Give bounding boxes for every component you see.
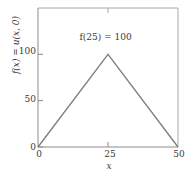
x-tick-label-50: 50 <box>166 150 190 159</box>
plot-figure: f(x) = u(x, 0) 100 50 0 0 25 50 x f(25) … <box>0 0 190 178</box>
peak-annotation: f(25) = 100 <box>48 32 163 42</box>
x-tick-label-group: 0 25 50 <box>0 0 190 178</box>
x-tick-label-0: 0 <box>26 150 52 159</box>
x-tick-label-25: 25 <box>97 150 123 159</box>
x-axis-label: x <box>39 161 179 171</box>
